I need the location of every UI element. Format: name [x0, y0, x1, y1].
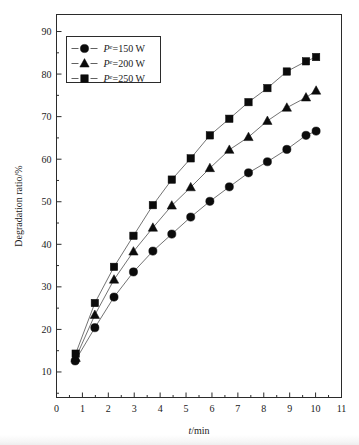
x-tick-label: 0 [54, 403, 59, 414]
data-point-circle [312, 127, 320, 135]
data-point-square [187, 155, 194, 162]
data-point-square [110, 263, 117, 270]
y-axis-title-label: Degradation ratio/% [13, 165, 24, 246]
y-tick-label: 90 [42, 26, 52, 37]
data-point-circle [149, 247, 157, 255]
data-point-square [226, 115, 233, 122]
figure-canvas: 01234567891011 102030405060708090 Pe=150… [0, 0, 359, 445]
x-tick-label: 8 [261, 403, 266, 414]
data-point-square [72, 350, 79, 357]
svg-text:t/min: t/min [188, 425, 209, 436]
data-point-circle [225, 183, 233, 191]
y-tick-label: 80 [42, 69, 52, 80]
y-axis-title: Degradation ratio/% [13, 165, 24, 246]
degradation-ratio-line-chart: 01234567891011 102030405060708090 Pe=150… [0, 0, 359, 445]
data-point-circle [129, 268, 137, 276]
y-tick-label: 60 [42, 154, 52, 165]
y-axis-tick-labels: 102030405060708090 [42, 26, 52, 377]
data-point-square [91, 299, 98, 306]
data-point-square [168, 176, 175, 183]
y-tick-label: 10 [42, 366, 52, 377]
data-point-square [81, 75, 88, 82]
x-tick-label: 5 [184, 403, 189, 414]
data-point-circle [206, 197, 214, 205]
data-point-circle [91, 324, 99, 332]
x-tick-label: 3 [132, 403, 137, 414]
data-point-square [149, 201, 156, 208]
data-point-square [130, 232, 137, 239]
x-tick-label: 4 [158, 403, 163, 414]
legend-label: Pe=150 W [103, 43, 146, 55]
y-tick-label: 20 [42, 324, 52, 335]
chart-background [0, 0, 359, 445]
data-point-circle [187, 213, 195, 221]
data-point-square [302, 58, 309, 65]
x-tick-label: 2 [106, 403, 111, 414]
x-tick-label: 9 [287, 403, 292, 414]
data-point-circle [263, 158, 271, 166]
data-point-circle [302, 131, 310, 139]
y-tick-label: 70 [42, 111, 52, 122]
x-tick-label: 11 [337, 403, 347, 414]
y-tick-label: 40 [42, 239, 52, 250]
data-point-circle [80, 44, 88, 52]
chart-legend: Pe=150 WPe=200 WPe=250 W [67, 37, 161, 85]
data-point-circle [244, 169, 252, 177]
legend-label: Pe=200 W [103, 58, 146, 70]
y-tick-label: 50 [42, 196, 52, 207]
data-point-square [206, 132, 213, 139]
data-point-circle [283, 145, 291, 153]
x-axis-title: t/min [188, 425, 209, 436]
y-tick-label: 30 [42, 281, 52, 292]
data-point-circle [168, 230, 176, 238]
data-point-square [245, 98, 252, 105]
data-point-square [312, 53, 319, 60]
x-tick-label: 6 [209, 403, 214, 414]
data-point-square [283, 68, 290, 75]
legend-label: Pe=250 W [103, 73, 146, 85]
data-point-square [264, 84, 271, 91]
x-tick-label: 1 [80, 403, 85, 414]
data-point-circle [110, 293, 118, 301]
x-tick-label: 10 [311, 403, 321, 414]
x-tick-label: 7 [235, 403, 240, 414]
